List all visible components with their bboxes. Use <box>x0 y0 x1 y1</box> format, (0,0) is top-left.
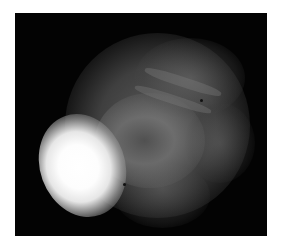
dark-speck <box>123 183 126 186</box>
dark-speck <box>200 99 203 102</box>
microscopy-image <box>15 13 267 236</box>
